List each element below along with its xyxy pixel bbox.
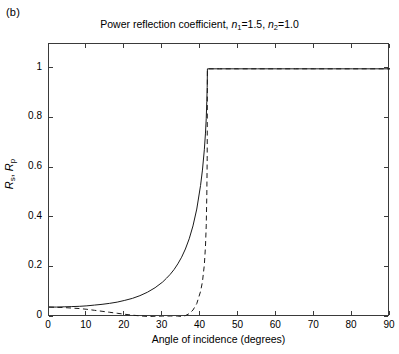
title-prefix: Power reflection coefficient, (100, 18, 231, 30)
series-Rp (49, 69, 390, 317)
y-tick-label-0.4: 0.4 (10, 210, 42, 221)
title-n1-subscript: 1 (237, 23, 241, 32)
y-tick-label-0.2: 0.2 (10, 259, 42, 270)
ylabel-rs-subscript: s (8, 177, 17, 181)
x-tick-70 (313, 311, 314, 315)
y-tick-0.6 (384, 167, 388, 168)
x-tick-label-10: 10 (71, 319, 101, 330)
y-tick-label-0: 0 (10, 309, 42, 320)
title-n2-symbol: n (268, 18, 274, 30)
x-tick-80 (351, 44, 352, 48)
x-tick-50 (237, 311, 238, 315)
x-tick-label-30: 30 (147, 319, 177, 330)
y-tick-1 (49, 67, 53, 68)
ylabel-rs-symbol: R (3, 181, 15, 189)
x-tick-70 (313, 44, 314, 48)
y-tick-0.4 (49, 216, 53, 217)
x-tick-80 (351, 311, 352, 315)
x-tick-40 (199, 44, 200, 48)
x-tick-40 (199, 311, 200, 315)
x-tick-label-20: 20 (109, 319, 139, 330)
y-tick-1 (384, 67, 388, 68)
y-axis-label: Rs, Rp (3, 144, 15, 204)
x-tick-50 (237, 44, 238, 48)
plot-area (48, 43, 389, 316)
title-n1-value: =1.5, (241, 18, 268, 30)
series-Rs (49, 69, 390, 307)
figure-panel: (b) Power reflection coefficient, n1=1.5… (0, 0, 399, 354)
y-tick-0.8 (384, 117, 388, 118)
x-tick-60 (275, 311, 276, 315)
panel-label: (b) (6, 6, 20, 18)
x-tick-label-90: 90 (374, 319, 399, 330)
x-tick-label-40: 40 (185, 319, 215, 330)
x-tick-label-50: 50 (222, 319, 252, 330)
x-tick-label-80: 80 (336, 319, 366, 330)
x-tick-10 (85, 44, 86, 48)
y-tick-label-0.8: 0.8 (10, 110, 42, 121)
y-tick-0 (384, 316, 388, 317)
y-tick-0 (49, 316, 53, 317)
y-tick-0.2 (384, 266, 388, 267)
curves-svg (49, 44, 390, 317)
x-tick-label-70: 70 (298, 319, 328, 330)
x-tick-20 (123, 311, 124, 315)
x-tick-label-0: 0 (33, 319, 63, 330)
title-n2-value: =1.0 (278, 18, 299, 30)
x-tick-60 (275, 44, 276, 48)
x-tick-0 (48, 44, 49, 48)
chart-title: Power reflection coefficient, n1=1.5, n2… (0, 18, 399, 30)
y-tick-0.4 (384, 216, 388, 217)
x-tick-30 (161, 44, 162, 48)
y-tick-0.8 (49, 117, 53, 118)
y-tick-0.2 (49, 266, 53, 267)
x-tick-label-60: 60 (260, 319, 290, 330)
y-tick-label-1: 1 (10, 61, 42, 72)
x-tick-90 (389, 311, 390, 315)
y-tick-label-0.6: 0.6 (10, 160, 42, 171)
x-tick-30 (161, 311, 162, 315)
x-tick-20 (123, 44, 124, 48)
y-tick-0.6 (49, 167, 53, 168)
x-tick-0 (48, 311, 49, 315)
x-tick-10 (85, 311, 86, 315)
x-axis-label: Angle of incidence (degrees) (48, 333, 389, 345)
x-tick-90 (389, 44, 390, 48)
title-n2-subscript: 2 (274, 23, 278, 32)
